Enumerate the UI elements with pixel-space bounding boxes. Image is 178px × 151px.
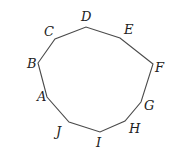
vertex-label-c: C	[44, 24, 54, 39]
vertex-label-f: F	[154, 60, 165, 75]
decagon-outline	[38, 27, 153, 132]
vertex-label-b: B	[26, 56, 37, 71]
vertex-label-e: E	[123, 22, 134, 37]
vertex-label-h: H	[128, 121, 141, 136]
vertex-label-d: D	[80, 9, 92, 24]
vertex-label-g: G	[144, 98, 154, 113]
vertex-label-i: I	[95, 135, 102, 150]
vertex-label-j: J	[53, 124, 62, 139]
vertex-label-a: A	[36, 89, 46, 104]
decagon-diagram: A B C D E F G H I J	[0, 0, 178, 151]
